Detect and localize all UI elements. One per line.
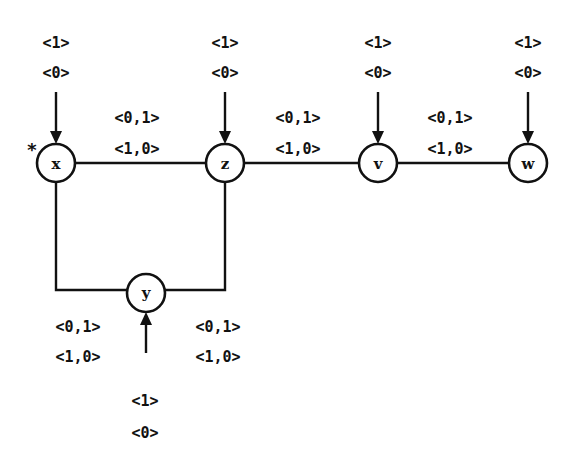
w-input-label-0: <0> <box>514 64 541 82</box>
input-arrow-x <box>50 92 62 144</box>
edge-z-y-label-bottom: <1,0> <box>195 348 240 366</box>
input-arrow-w <box>522 92 534 144</box>
y-input-label-0: <0> <box>131 424 158 442</box>
graph-diagram: x * z v w y <1> <0> <1> <0> <1> <0> <1> … <box>0 0 574 464</box>
v-input-label-0: <0> <box>364 64 391 82</box>
edge-x-y <box>56 182 127 290</box>
node-w-label: w <box>521 155 536 173</box>
z-input-label-0: <0> <box>211 64 238 82</box>
node-y-label: y <box>141 284 152 302</box>
edge-v-w-label-bottom: <1,0> <box>427 140 472 158</box>
node-v-label: v <box>373 155 384 173</box>
edge-x-y-label-top: <0,1> <box>55 318 100 336</box>
w-input-label-1: <1> <box>514 34 541 52</box>
v-input-label-1: <1> <box>364 34 391 52</box>
edge-x-y-label-bottom: <1,0> <box>55 348 100 366</box>
input-arrow-y <box>140 312 152 353</box>
x-input-label-1: <1> <box>42 34 69 52</box>
start-marker-asterisk: * <box>27 139 38 160</box>
edge-x-z-label-top: <0,1> <box>114 109 159 127</box>
z-input-label-1: <1> <box>211 34 238 52</box>
input-arrow-v <box>372 92 384 144</box>
node-z: z <box>206 144 244 182</box>
x-input-label-0: <0> <box>42 64 69 82</box>
node-x: x <box>37 144 75 182</box>
edge-z-y-label-top: <0,1> <box>195 318 240 336</box>
input-arrow-z <box>219 92 231 144</box>
edge-z-v-label-top: <0,1> <box>275 109 320 127</box>
node-y: y <box>127 274 165 312</box>
edge-x-z-label-bottom: <1,0> <box>114 140 159 158</box>
y-input-label-1: <1> <box>131 392 158 410</box>
edge-z-v-label-bottom: <1,0> <box>275 140 320 158</box>
edge-v-w-label-top: <0,1> <box>427 109 472 127</box>
edge-z-y <box>165 182 225 290</box>
node-x-label: x <box>52 155 62 173</box>
node-v: v <box>359 144 397 182</box>
node-w: w <box>509 144 547 182</box>
node-z-label: z <box>221 155 230 173</box>
